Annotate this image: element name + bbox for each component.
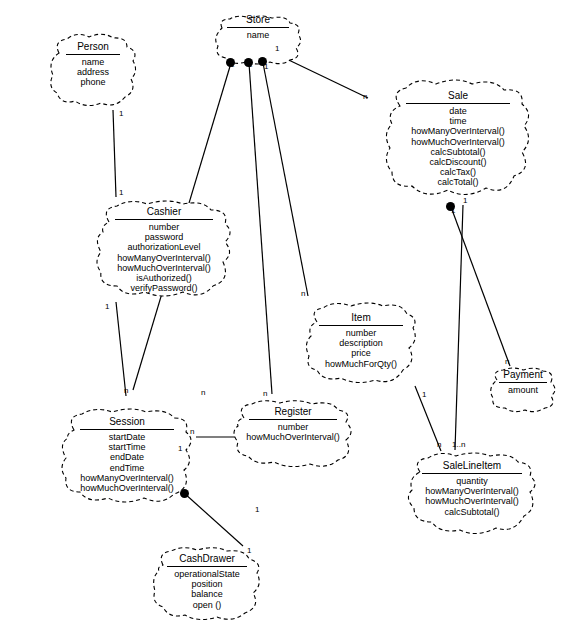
- attribute: position: [151, 579, 263, 589]
- class-divider: [499, 382, 547, 383]
- class-title: Store: [212, 14, 304, 26]
- class-node-item[interactable]: Item number description price howMuchFor…: [303, 300, 419, 386]
- operation: calcDiscount(): [382, 157, 534, 167]
- class-divider: [406, 103, 510, 104]
- attribute: price: [303, 348, 419, 358]
- operation: howMuchForQty(): [303, 359, 419, 369]
- operation: howManyOverInterval(): [382, 126, 534, 136]
- class-title: Person: [47, 41, 139, 53]
- class-attributes: number password authorizationLevel howMa…: [93, 222, 235, 293]
- class-title: Payment: [487, 369, 559, 381]
- multiplicity-label: n: [363, 92, 367, 101]
- class-attributes: number howMuchOverInterval(): [230, 422, 356, 442]
- operation: verifyPassword(): [93, 283, 235, 293]
- class-node-salelineitem[interactable]: SaleLineItem quantity howManyOverInterva…: [404, 450, 540, 538]
- class-title: Session: [58, 416, 196, 428]
- multiplicity-label: n: [190, 427, 194, 436]
- class-node-payment[interactable]: Payment amount: [487, 366, 559, 414]
- class-attributes: name: [212, 30, 304, 40]
- class-title: Sale: [382, 90, 534, 102]
- class-node-cashdrawer[interactable]: CashDrawer operationalState position bal…: [151, 545, 263, 623]
- operation: howMuchOverInterval(): [93, 263, 235, 273]
- operation: howManyOverInterval(): [93, 253, 235, 263]
- class-divider: [80, 429, 174, 430]
- class-divider: [66, 54, 120, 55]
- assoc-sale-salelineitem: [455, 205, 463, 450]
- class-title: SaleLineItem: [404, 460, 540, 472]
- attribute: description: [303, 338, 419, 348]
- attribute: quantity: [404, 476, 540, 486]
- class-attributes: number description price howMuchForQty(): [303, 328, 419, 369]
- multiplicity-label: 1..n: [452, 440, 465, 449]
- operation: calcSubtotal(): [382, 147, 534, 157]
- class-attributes: date time howManyOverInterval() howMuchO…: [382, 106, 534, 188]
- class-attributes: amount: [487, 385, 559, 395]
- attribute: endTime: [58, 463, 196, 473]
- multiplicity-label: 1: [248, 60, 252, 69]
- multiplicity-label: 1: [264, 62, 268, 71]
- attribute: operationalState: [151, 569, 263, 579]
- composition-dot-session-cashdrawer: [180, 489, 189, 498]
- class-node-person[interactable]: Person name address phone: [47, 31, 139, 109]
- multiplicity-label: 1: [178, 444, 182, 453]
- class-title: Register: [230, 406, 356, 418]
- class-divider: [249, 419, 337, 420]
- multiplicity-label: 1: [119, 109, 123, 118]
- multiplicity-label: 1: [275, 44, 279, 53]
- multiplicity-label: 1: [422, 390, 426, 399]
- class-node-register[interactable]: Register number howMuchOverInterval(): [230, 398, 356, 470]
- class-title: Item: [303, 312, 419, 324]
- class-attributes: name address phone: [47, 57, 139, 88]
- multiplicity-label: 1: [230, 60, 234, 69]
- assoc-cashier-session: [116, 302, 126, 396]
- attribute: date: [382, 106, 534, 116]
- class-divider: [115, 219, 213, 220]
- attribute: time: [382, 116, 534, 126]
- multiplicity-label: 1: [105, 302, 109, 311]
- multiplicity-label: 1: [119, 188, 123, 197]
- operation: calcTotal(): [382, 177, 534, 187]
- operation: howMuchOverInterval(): [404, 496, 540, 506]
- assoc-store-register: [249, 63, 272, 394]
- operation: isAuthorized(): [93, 273, 235, 283]
- operation: howMuchOverInterval(): [382, 137, 534, 147]
- assoc-store-item: [263, 63, 308, 296]
- multiplicity-label: 1: [247, 546, 251, 555]
- attribute: balance: [151, 589, 263, 599]
- multiplicity-label: n: [301, 289, 305, 298]
- class-title: Cashier: [93, 206, 235, 218]
- operation: calcSubtotal(): [404, 507, 540, 517]
- multiplicity-label: n: [263, 389, 267, 398]
- operation: calcTax(): [382, 167, 534, 177]
- attribute: endDate: [58, 452, 196, 462]
- class-divider: [319, 325, 403, 326]
- attribute: name: [47, 57, 139, 67]
- attribute: number: [303, 328, 419, 338]
- class-divider: [167, 566, 247, 567]
- assoc-person-cashier: [113, 110, 116, 197]
- multiplicity-label: n: [124, 386, 128, 395]
- multiplicity-label: 1: [451, 206, 455, 215]
- attribute: startTime: [58, 442, 196, 452]
- attribute: number: [230, 422, 356, 432]
- operation: howManyOverInterval(): [404, 486, 540, 496]
- multiplicity-label: n: [505, 357, 509, 366]
- class-node-cashier[interactable]: Cashier number password authorizationLev…: [93, 198, 235, 300]
- class-node-sale[interactable]: Sale date time howManyOverInterval() how…: [382, 76, 534, 200]
- multiplicity-label: n: [201, 388, 205, 397]
- attribute: startDate: [58, 432, 196, 442]
- attribute: number: [93, 222, 235, 232]
- class-attributes: quantity howManyOverInterval() howMuchOv…: [404, 476, 540, 517]
- multiplicity-label: 1: [255, 505, 259, 514]
- class-divider: [227, 27, 289, 28]
- attribute: phone: [47, 77, 139, 87]
- multiplicity-label: n: [437, 440, 441, 449]
- attribute: password: [93, 232, 235, 242]
- class-attributes: operationalState position balance open (…: [151, 569, 263, 610]
- uml-class-diagram: Store name Person name address phone Sal…: [0, 0, 566, 630]
- attribute: authorizationLevel: [93, 242, 235, 252]
- operation: howManyOverInterval(): [58, 473, 196, 483]
- attribute: address: [47, 67, 139, 77]
- class-attributes: startDate startTime endDate endTime howM…: [58, 432, 196, 493]
- class-node-session[interactable]: Session startDate startTime endDate endT…: [58, 406, 196, 506]
